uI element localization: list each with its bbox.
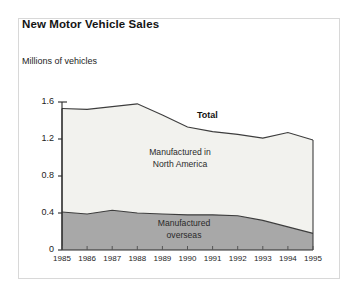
x-tick-label: 1995 bbox=[298, 254, 328, 263]
series-label-north-america-line1: Manufactured in bbox=[128, 146, 232, 158]
y-tick-label: 0 bbox=[30, 244, 54, 254]
y-tick-label: 0.4 bbox=[30, 207, 54, 217]
y-tick-label: 1.2 bbox=[30, 133, 54, 143]
series-label-overseas-line2: overseas bbox=[138, 229, 230, 241]
y-tick-label: 1.6 bbox=[30, 96, 54, 106]
y-tick-label: 0.8 bbox=[30, 170, 54, 180]
series-label-total: Total bbox=[197, 110, 218, 120]
series-label-north-america-line2: North America bbox=[128, 158, 232, 170]
series-label-north-america: Manufactured in North America bbox=[128, 146, 232, 170]
series-label-overseas: Manufactured overseas bbox=[138, 217, 230, 241]
series-label-overseas-line1: Manufactured bbox=[138, 217, 230, 229]
